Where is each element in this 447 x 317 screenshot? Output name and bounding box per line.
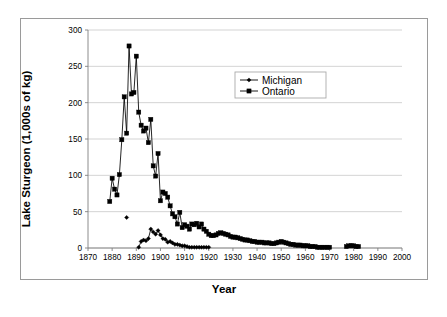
x-tick-label: 1900	[151, 253, 170, 262]
data-point	[207, 245, 211, 249]
data-point	[117, 173, 121, 177]
y-tick-label: 300	[68, 26, 82, 35]
data-point	[156, 151, 160, 155]
y-tick-label: 0	[77, 244, 82, 253]
x-tick-label: 1930	[224, 253, 243, 262]
legend-label: Ontario	[262, 86, 295, 97]
y-tick-label: 200	[68, 99, 82, 108]
y-axis-title: Lake Sturgeon (1,000s of kg)	[20, 71, 32, 228]
data-point	[125, 215, 129, 219]
x-axis-ticks: 1870188018901900191019201930194019501960…	[79, 248, 412, 262]
data-point	[166, 195, 170, 199]
y-axis-ticks: 050100150200250300	[68, 26, 88, 253]
data-point	[120, 138, 124, 142]
data-point	[127, 44, 131, 48]
data-point	[187, 227, 191, 231]
data-point	[144, 126, 148, 130]
x-tick-label: 1990	[369, 253, 388, 262]
data-point	[108, 199, 112, 203]
x-tick-label: 1980	[345, 253, 364, 262]
data-point	[356, 244, 360, 248]
data-point	[154, 174, 158, 178]
x-tick-label: 1960	[296, 253, 315, 262]
series-michigan	[125, 215, 211, 249]
x-axis-title: Year	[212, 283, 237, 295]
x-tick-label: 1970	[320, 253, 339, 262]
x-tick-label: 1880	[103, 253, 122, 262]
data-point	[137, 110, 141, 114]
lake-sturgeon-line-chart: 050100150200250300 187018801890190019101…	[0, 0, 447, 317]
data-point	[110, 176, 114, 180]
x-tick-label: 1920	[200, 253, 219, 262]
x-tick-label: 1910	[176, 253, 195, 262]
legend-label: Michigan	[262, 75, 302, 86]
data-point	[122, 95, 126, 99]
chart-figure: 050100150200250300 187018801890190019101…	[0, 0, 447, 317]
x-tick-label: 1870	[79, 253, 98, 262]
x-tick-label: 1950	[272, 253, 291, 262]
data-point	[168, 204, 172, 208]
data-point	[199, 222, 203, 226]
data-point	[134, 54, 138, 58]
data-point	[175, 222, 179, 226]
data-point	[132, 90, 136, 94]
data-point	[139, 123, 143, 127]
x-tick-label: 2000	[393, 253, 412, 262]
y-tick-label: 100	[68, 171, 82, 180]
x-tick-label: 1890	[127, 253, 146, 262]
data-point	[125, 131, 129, 135]
data-point	[158, 199, 162, 203]
data-point	[173, 215, 177, 219]
legend-marker-square	[247, 89, 251, 93]
data-point	[149, 117, 153, 121]
data-point	[327, 245, 331, 249]
data-point	[112, 187, 116, 191]
y-tick-label: 150	[68, 135, 82, 144]
data-point	[151, 164, 155, 168]
y-tick-label: 50	[73, 208, 83, 217]
data-point	[146, 141, 150, 145]
y-tick-label: 250	[68, 62, 82, 71]
data-point	[115, 193, 119, 197]
x-tick-label: 1940	[248, 253, 267, 262]
gridlines	[88, 30, 402, 248]
data-point	[178, 210, 182, 214]
data-point	[137, 245, 141, 249]
chart-legend: MichiganOntario	[235, 72, 326, 98]
